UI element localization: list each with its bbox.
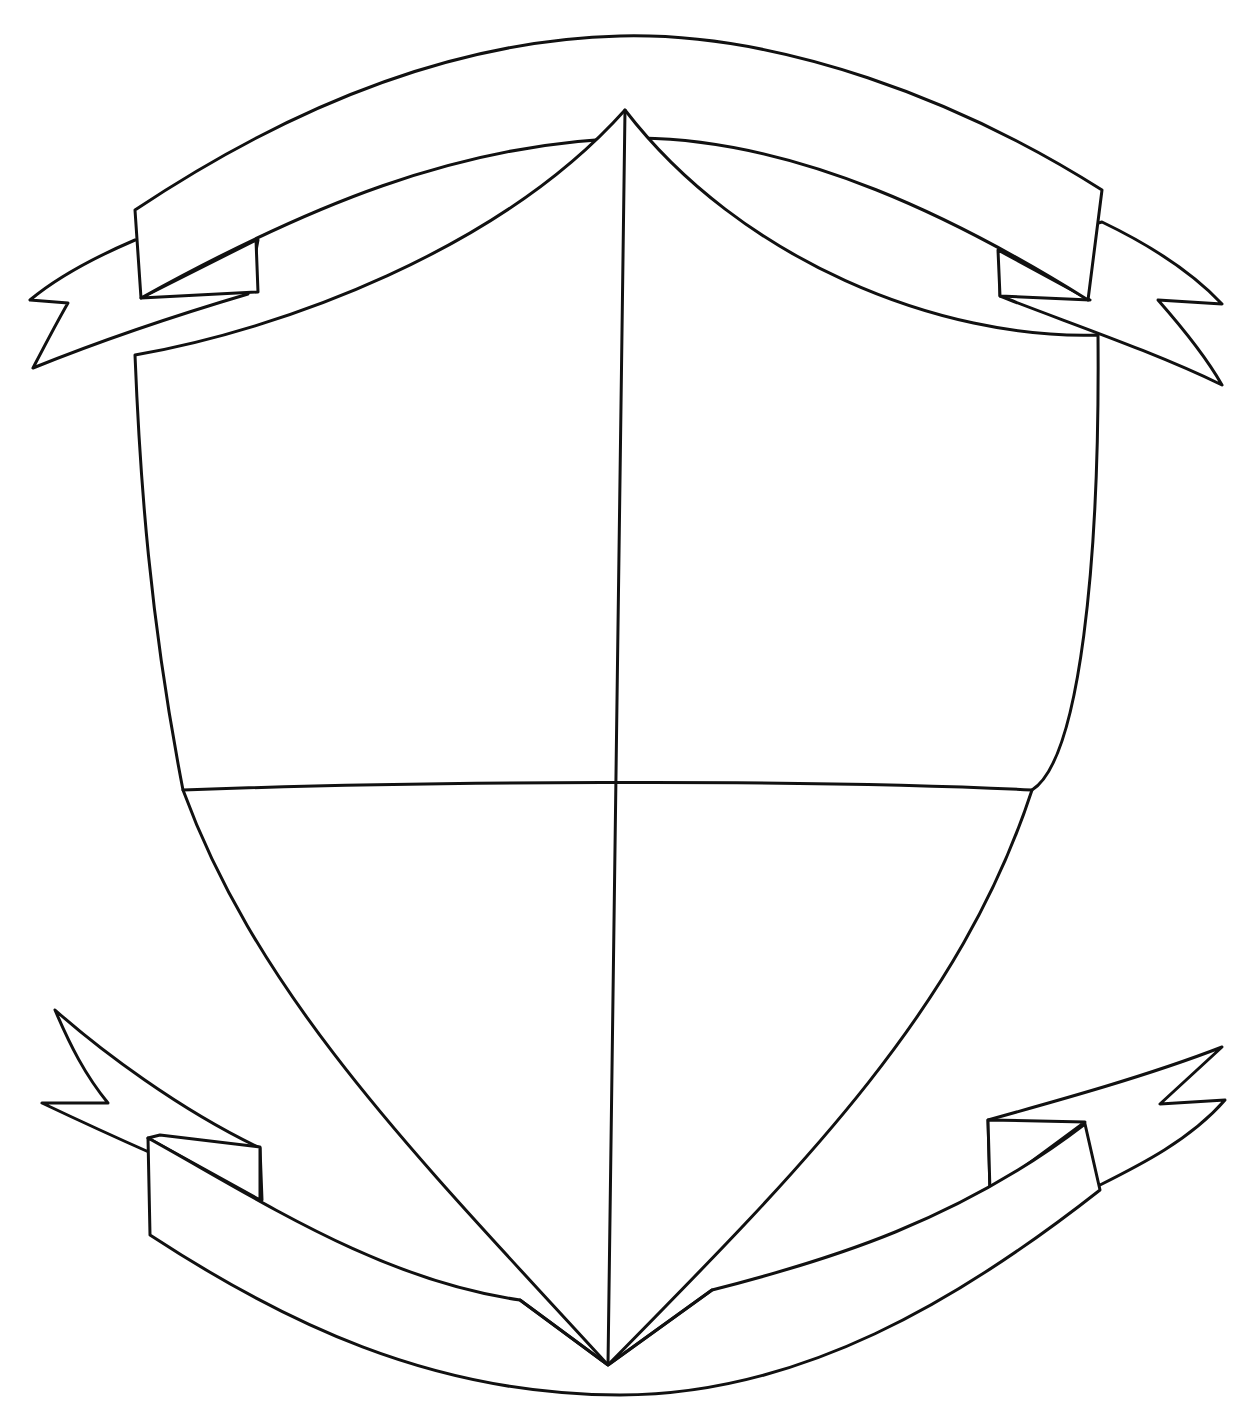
shield [135, 110, 1098, 1365]
shield-drawing [0, 0, 1256, 1415]
